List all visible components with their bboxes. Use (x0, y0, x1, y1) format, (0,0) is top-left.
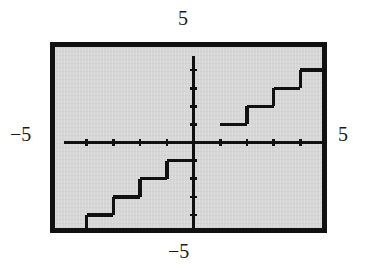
axis-label-bottom: −5 (168, 241, 189, 261)
axis-label-left: −5 (10, 124, 31, 144)
axis-label-right: 5 (338, 124, 348, 144)
plot-canvas (60, 52, 327, 233)
plot-layer (60, 56, 327, 233)
calculator-screen-frame (50, 42, 327, 233)
axis-label-top: 5 (178, 8, 188, 28)
step-function-figure: 5 −5 −5 5 (0, 0, 365, 275)
